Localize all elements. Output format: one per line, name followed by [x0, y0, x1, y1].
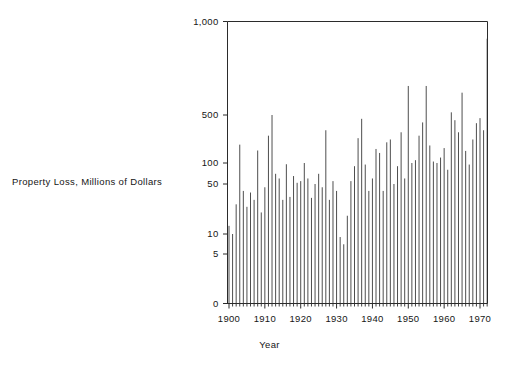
- y-tick-label: 500: [202, 109, 219, 120]
- bars-group: [229, 39, 487, 304]
- plot-frame: [228, 22, 488, 304]
- x-tick-label: 1940: [361, 313, 383, 324]
- y-tick-label: 50: [207, 178, 218, 189]
- x-tick-label: 1930: [325, 313, 347, 324]
- x-tick-label: 1960: [433, 313, 455, 324]
- y-tick-labels: 0510501005001,000: [193, 16, 218, 309]
- figure-container: Property Loss, Millions of Dollars 05105…: [0, 0, 505, 367]
- x-tick-label: 1910: [254, 313, 276, 324]
- x-axis-label-wrap: Year: [0, 339, 505, 350]
- x-tick-label: 1920: [290, 313, 312, 324]
- x-tick-label: 1900: [218, 313, 240, 324]
- y-tick-label: 10: [207, 228, 218, 239]
- y-tick-label: 1,000: [193, 16, 218, 27]
- x-tick-labels: 19001910192019301940195019601970: [218, 313, 491, 324]
- y-tick-label: 5: [213, 248, 219, 259]
- x-tick-label: 1970: [469, 313, 491, 324]
- x-axis-label: Year: [259, 339, 280, 350]
- chart-plot: 0510501005001,000 1900191019201930194019…: [0, 0, 505, 367]
- y-tick-label: 100: [202, 157, 219, 168]
- y-tick-label: 0: [213, 298, 219, 309]
- x-tick-label: 1950: [397, 313, 419, 324]
